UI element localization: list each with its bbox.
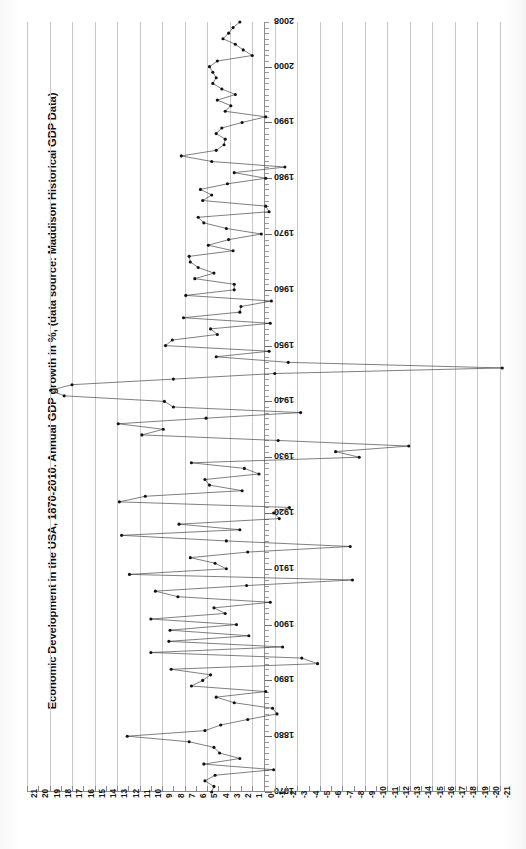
value-axis-label: 6 (199, 793, 208, 798)
data-point (216, 99, 219, 102)
data-point (268, 210, 271, 213)
value-axis-label: 5 (210, 793, 219, 798)
data-point (246, 718, 249, 721)
data-point (234, 43, 237, 46)
value-axis-label: 0 (267, 793, 276, 798)
data-point (233, 288, 236, 291)
data-point (349, 545, 352, 548)
data-point (224, 612, 227, 615)
data-point (189, 556, 192, 559)
data-point (118, 500, 121, 503)
data-point (238, 20, 241, 23)
data-point (215, 355, 218, 358)
data-point (202, 221, 205, 224)
data-point (299, 411, 302, 414)
data-point (180, 154, 183, 157)
value-axis-label: -21 (503, 786, 512, 798)
data-point (210, 160, 213, 163)
data-point (205, 417, 208, 420)
data-point (358, 456, 361, 459)
data-point (257, 472, 260, 475)
data-point (269, 322, 272, 325)
data-point (275, 712, 278, 715)
data-point (288, 506, 291, 509)
data-point (225, 567, 228, 570)
data-point (190, 461, 193, 464)
data-point (203, 779, 206, 782)
data-point (212, 785, 215, 788)
data-point (281, 645, 284, 648)
data-point (283, 166, 286, 169)
data-point (188, 740, 191, 743)
data-point (211, 71, 214, 74)
data-point (154, 590, 157, 593)
data-point (241, 121, 244, 124)
data-point (232, 249, 235, 252)
data-point (120, 534, 123, 537)
data-point (199, 188, 202, 191)
data-point (49, 389, 52, 392)
data-point (197, 216, 200, 219)
data-point (287, 361, 290, 364)
data-point (247, 634, 250, 637)
data-point (210, 790, 213, 793)
data-point (149, 617, 152, 620)
data-point (232, 26, 235, 29)
data-point (271, 707, 274, 710)
data-point (182, 316, 185, 319)
plot-inner: 1870188018901900191019201930194019501960… (27, 22, 500, 792)
data-point (214, 562, 217, 565)
data-point (203, 478, 206, 481)
data-point (215, 76, 218, 79)
value-axis-label: 9 (165, 793, 174, 798)
data-point (225, 227, 228, 230)
data-point (233, 283, 236, 286)
data-point (167, 640, 170, 643)
data-point (243, 467, 246, 470)
data-point (227, 238, 230, 241)
data-point (272, 768, 275, 771)
data-point (210, 193, 213, 196)
data-point (227, 32, 230, 35)
data-point (246, 551, 249, 554)
data-point (223, 143, 226, 146)
data-point (277, 439, 280, 442)
data-point (193, 277, 196, 280)
data-point (172, 378, 175, 381)
data-point (184, 294, 187, 297)
value-axis-label: 3 (233, 793, 242, 798)
data-point (264, 205, 267, 208)
data-point (233, 701, 236, 704)
value-axis-label: 7 (188, 793, 197, 798)
data-point (128, 573, 131, 576)
chart-page: Economic Development in the USA, 1870-20… (0, 0, 526, 849)
data-point (177, 523, 180, 526)
data-point (197, 266, 200, 269)
data-point (260, 232, 263, 235)
data-point (235, 623, 238, 626)
data-point (190, 684, 193, 687)
data-point (201, 679, 204, 682)
series-line (51, 22, 503, 792)
data-point (251, 54, 254, 57)
data-point (278, 517, 281, 520)
data-point (216, 333, 219, 336)
data-point (225, 539, 228, 542)
data-point (238, 311, 241, 314)
data-point (501, 366, 504, 369)
data-point (189, 260, 192, 263)
data-point (269, 601, 272, 604)
data-point (218, 751, 221, 754)
data-point (245, 584, 248, 587)
data-point (264, 690, 267, 693)
data-point (214, 774, 217, 777)
data-point (212, 746, 215, 749)
plot-area: 1870188018901900191019201930194019501960… (27, 22, 500, 792)
data-point (219, 723, 222, 726)
value-axis-label: 1 (255, 793, 264, 798)
data-point (163, 400, 166, 403)
data-point (126, 735, 129, 738)
data-point (211, 82, 214, 85)
data-point (242, 48, 245, 51)
data-point (220, 87, 223, 90)
